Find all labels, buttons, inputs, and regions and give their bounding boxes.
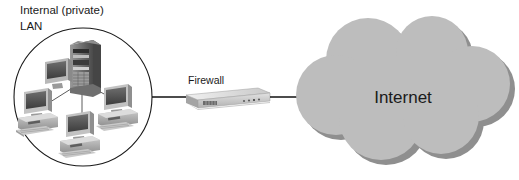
lan-label-line1: Internal (private) [20,4,104,16]
workstation-pc-right [96,84,138,131]
lan-label-line2: LAN [20,20,42,32]
tower-server-icon [70,40,101,97]
network-topology-diagram: Internal (private) LAN [0,0,519,180]
internet-label: Internet [374,88,432,107]
workstation-monitor-upper-left [45,58,72,89]
internet-cloud: Internet [296,16,515,165]
firewall-label: Firewall [188,74,224,86]
workstation-pc-center [58,111,100,158]
workstation-pc-left [16,88,58,137]
firewall-appliance-icon [186,88,270,110]
